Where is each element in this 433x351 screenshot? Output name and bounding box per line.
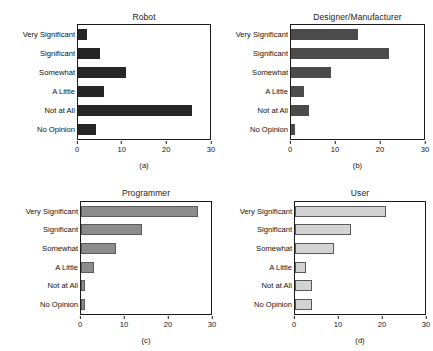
plot-area-d: Very SignificantSignificantSomewhatA Lit… <box>294 201 426 315</box>
chart-title-c: Programmer <box>80 188 212 198</box>
chart-title-d: User <box>294 188 426 198</box>
category-label: Somewhat <box>42 244 81 253</box>
x-axis-a: 0102030 <box>77 141 211 161</box>
bar-row: A Little <box>78 82 210 101</box>
category-label: No Opinion <box>40 300 81 309</box>
x-tick-mark <box>79 316 80 319</box>
bar-row: Very Significant <box>78 25 210 44</box>
x-tick-label: 10 <box>334 320 342 330</box>
bar <box>295 280 312 291</box>
bar <box>295 262 306 273</box>
category-label: No Opinion <box>250 125 291 134</box>
x-axis-d: 0102030 <box>294 316 426 336</box>
category-label: A Little <box>52 87 78 96</box>
x-tick: 20 <box>162 141 170 155</box>
x-tick-mark <box>166 141 167 144</box>
panel-d-user: User Very SignificantSignificantSomewhat… <box>217 176 433 351</box>
bar <box>78 29 87 40</box>
bar-group-a: Very SignificantSignificantSomewhatA Lit… <box>78 25 210 139</box>
x-tick: 10 <box>117 141 125 155</box>
bar-row: Not at All <box>291 101 424 120</box>
category-label: A Little <box>269 263 295 272</box>
chart-title-a: Robot <box>77 12 211 22</box>
x-tick-label: 10 <box>117 145 125 155</box>
x-tick-label: 0 <box>292 320 296 330</box>
bar <box>291 124 295 135</box>
bar <box>291 105 309 116</box>
category-label: Significant <box>40 49 78 58</box>
bar-row: Significant <box>78 44 210 63</box>
x-tick: 0 <box>78 316 82 330</box>
panel-caption-b: (b) <box>290 161 425 170</box>
bar-row: A Little <box>295 258 425 277</box>
bar-row: Not at All <box>295 277 425 296</box>
bar-row: No Opinion <box>291 120 424 139</box>
bar-row: No Opinion <box>78 120 210 139</box>
x-tick-label: 10 <box>120 320 128 330</box>
bar-row: Significant <box>295 221 425 240</box>
x-tick-mark <box>337 316 338 319</box>
x-tick-label: 20 <box>162 145 170 155</box>
x-tick-mark <box>334 141 335 144</box>
category-label: Not at All <box>48 281 81 290</box>
bar <box>295 299 312 310</box>
x-tick-mark <box>424 141 425 144</box>
bar <box>78 67 126 78</box>
x-tick: 20 <box>378 316 386 330</box>
bar <box>291 67 331 78</box>
plot-area-c: Very SignificantSignificantSomewhatA Lit… <box>80 201 212 315</box>
bar <box>78 48 100 59</box>
category-label: A Little <box>55 263 81 272</box>
figure-four-panel-bar-charts: Robot Very SignificantSignificantSomewha… <box>0 0 433 351</box>
category-label: Very Significant <box>23 30 78 39</box>
x-tick-mark <box>381 316 382 319</box>
bar <box>291 29 358 40</box>
panel-b-designer-manufacturer: Designer/Manufacturer Very SignificantSi… <box>217 0 433 175</box>
x-tick-label: 0 <box>75 145 79 155</box>
plot-area-b: Very SignificantSignificantSomewhatA Lit… <box>290 24 425 140</box>
bar <box>291 48 389 59</box>
x-tick-label: 30 <box>421 145 429 155</box>
category-label: Not at All <box>262 281 295 290</box>
category-label: A Little <box>265 87 291 96</box>
x-tick: 0 <box>292 316 296 330</box>
x-tick-mark <box>379 141 380 144</box>
panel-caption-d: (d) <box>294 336 426 345</box>
bar <box>295 224 351 235</box>
x-tick-mark <box>293 316 294 319</box>
x-tick: 10 <box>331 141 339 155</box>
bar <box>81 262 94 273</box>
bar <box>81 206 198 217</box>
bar <box>78 105 192 116</box>
x-tick-label: 30 <box>208 320 216 330</box>
category-label: Very Significant <box>26 207 81 216</box>
x-tick-mark <box>210 141 211 144</box>
bar <box>81 224 142 235</box>
panel-c-programmer: Programmer Very SignificantSignificantSo… <box>0 176 216 351</box>
category-label: Significant <box>43 225 81 234</box>
bar-group-b: Very SignificantSignificantSomewhatA Lit… <box>291 25 424 139</box>
bar-row: Very Significant <box>291 25 424 44</box>
x-tick-label: 30 <box>207 145 215 155</box>
plot-area-a: Very SignificantSignificantSomewhatA Lit… <box>77 24 211 140</box>
bar <box>81 243 116 254</box>
x-tick-label: 20 <box>164 320 172 330</box>
bar-row: Significant <box>81 221 211 240</box>
category-label: Significant <box>257 225 295 234</box>
category-label: Very Significant <box>236 30 291 39</box>
bar-row: Not at All <box>81 277 211 296</box>
bar <box>78 86 104 97</box>
x-tick-mark <box>123 316 124 319</box>
x-tick: 30 <box>421 141 429 155</box>
bar-row: No Opinion <box>81 295 211 314</box>
x-tick-mark <box>289 141 290 144</box>
bar <box>291 86 304 97</box>
category-label: Not at All <box>45 106 78 115</box>
x-tick-mark <box>211 316 212 319</box>
bar-row: Somewhat <box>78 63 210 82</box>
bar <box>295 243 334 254</box>
x-tick-mark <box>167 316 168 319</box>
x-tick-label: 20 <box>378 320 386 330</box>
bar-row: Somewhat <box>291 63 424 82</box>
bar <box>78 124 96 135</box>
